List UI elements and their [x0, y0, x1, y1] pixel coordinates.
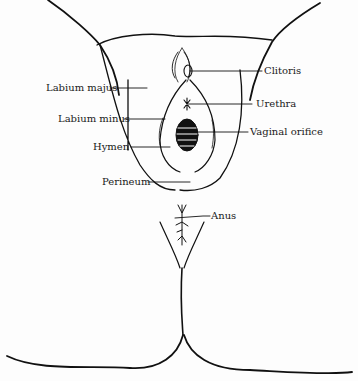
label-clitoris: Clitoris	[264, 65, 301, 77]
label-perineum: Perineum	[102, 176, 150, 188]
label-urethra: Urethra	[256, 98, 296, 110]
mons-outline	[97, 34, 272, 45]
anus-shape	[176, 205, 188, 245]
left-thigh-outline	[48, 0, 119, 95]
label-labium-majus: Labium majus	[46, 82, 117, 94]
left-buttock-outline	[7, 335, 183, 368]
label-labium-minus: Labium minus	[58, 113, 130, 125]
diagram-drawing	[0, 0, 358, 381]
anatomy-diagram: Clitoris Labium majus Urethra Labium min…	[0, 0, 358, 381]
right-buttock-outline	[184, 335, 352, 373]
right-thigh-outline	[250, 3, 320, 100]
label-hymen: Hymen	[93, 141, 129, 153]
label-anus: Anus	[211, 210, 236, 222]
label-vaginal-orifice: Vaginal orifice	[250, 126, 323, 138]
